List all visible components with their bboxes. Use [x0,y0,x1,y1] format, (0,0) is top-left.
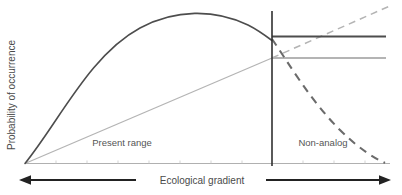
conceptual-response-curve-figure: Probability of occurrence Present range … [0,0,402,195]
extrapolated-linear-increase-line [272,5,392,58]
figure-container: Probability of occurrence Present range … [0,0,402,195]
non-analog-label: Non-analog [298,137,347,148]
present-range-label: Present range [92,137,152,148]
x-axis-title: Ecological gradient [160,175,245,186]
present-range-arrow [19,175,136,185]
axis-group [25,161,390,164]
non-analog-arrow [266,175,391,185]
y-axis-title: Probability of occurrence [6,40,17,150]
